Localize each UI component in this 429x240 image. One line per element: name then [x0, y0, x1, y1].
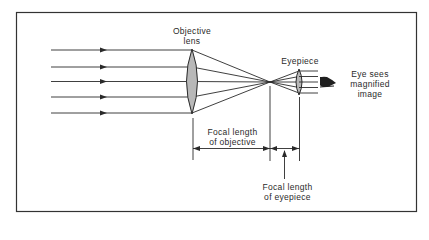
outgoing-rays [299, 71, 318, 93]
objective-label-line1: Objective [162, 26, 222, 36]
focal-eyepiece-line1: Focal length [255, 182, 320, 192]
objective-label-line2: lens [162, 36, 222, 46]
focal-length-eyepiece-dimension [270, 146, 300, 179]
eye-label-line1: Eye sees [340, 69, 400, 79]
focal-length-objective-label: Focal length of objective [200, 127, 265, 147]
eye-label-line3: image [340, 89, 400, 99]
diverging-rays [270, 71, 299, 93]
converging-rays [192, 50, 270, 113]
eyepiece-label: Eyepiece [275, 56, 325, 66]
focal-objective-line2: of objective [200, 137, 265, 147]
focal-objective-line1: Focal length [200, 127, 265, 137]
eye-icon [320, 77, 336, 87]
focal-length-eyepiece-label: Focal length of eyepiece [255, 182, 320, 202]
eye-label-line2: magnified [340, 79, 400, 89]
reference-lines [193, 86, 300, 161]
objective-lens-label: Objective lens [162, 26, 222, 46]
ray-direction-arrows [100, 48, 107, 116]
objective-lens [187, 49, 198, 114]
eye-sees-label: Eye sees magnified image [340, 69, 400, 99]
incoming-rays [51, 50, 192, 113]
focal-eyepiece-line2: of eyepiece [255, 192, 320, 202]
